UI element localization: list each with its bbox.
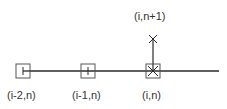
node-i-2-n-marker (16, 64, 30, 78)
node-label-i-n: (i,n) (142, 89, 161, 101)
stencil-diagram: (i-2,n) (i-1,n) (i,n) (i,n+1) (0, 0, 227, 109)
node-label-i-2-n: (i-2,n) (7, 89, 36, 101)
node-label-i-1-n: (i-1,n) (72, 89, 101, 101)
node-label-i-n-plus-1: (i,n+1) (134, 10, 166, 22)
